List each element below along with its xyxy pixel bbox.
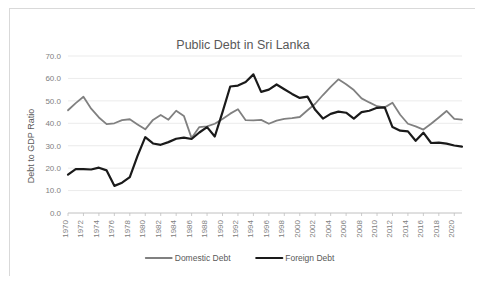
legend-label-2: Foreign Debt bbox=[285, 253, 335, 263]
x-tick-label-1978: 1978 bbox=[123, 219, 132, 237]
chart-title: Public Debt in Sri Lanka bbox=[176, 38, 309, 52]
x-tick-label-2016: 2016 bbox=[416, 219, 425, 237]
x-tick-label-2004: 2004 bbox=[324, 219, 333, 237]
x-tick-label-1970: 1970 bbox=[61, 219, 70, 237]
y-tick-label-10.0: 10.0 bbox=[45, 186, 61, 195]
y-tick-label-70.0: 70.0 bbox=[45, 52, 61, 61]
x-tick-label-1986: 1986 bbox=[185, 219, 194, 237]
public-debt-line-chart: Public Debt in Sri Lanka Debt to GDP Rat… bbox=[10, 9, 476, 277]
x-tick-label-2010: 2010 bbox=[370, 219, 379, 237]
x-tick-label-2018: 2018 bbox=[432, 219, 441, 237]
x-tick-label-1974: 1974 bbox=[92, 219, 101, 237]
x-tick-label-1990: 1990 bbox=[216, 219, 225, 237]
x-tick-label-1980: 1980 bbox=[138, 219, 147, 237]
x-tick-label-1976: 1976 bbox=[107, 219, 116, 237]
y-tick-label-60.0: 60.0 bbox=[45, 74, 61, 83]
y-tick-label-40.0: 40.0 bbox=[45, 119, 61, 128]
y-axis-title: Debt to GDP Ratio bbox=[26, 109, 36, 183]
y-tick-label-0.0: 0.0 bbox=[50, 209, 62, 218]
x-tick-label-1998: 1998 bbox=[277, 219, 286, 237]
x-tick-label-1994: 1994 bbox=[246, 219, 255, 237]
x-tick-label-1984: 1984 bbox=[169, 219, 178, 237]
x-tick-label-2020: 2020 bbox=[447, 219, 456, 237]
x-tick-label-2014: 2014 bbox=[401, 219, 410, 237]
x-tick-label-2006: 2006 bbox=[339, 219, 348, 237]
y-tick-label-30.0: 30.0 bbox=[45, 142, 61, 151]
x-tick-label-1996: 1996 bbox=[262, 219, 271, 237]
y-tick-label-50.0: 50.0 bbox=[45, 97, 61, 106]
y-tick-label-20.0: 20.0 bbox=[45, 164, 61, 173]
x-tick-label-2008: 2008 bbox=[355, 219, 364, 237]
x-tick-label-1982: 1982 bbox=[154, 219, 163, 237]
legend-label-1: Domestic Debt bbox=[175, 253, 231, 263]
x-tick-label-2002: 2002 bbox=[308, 219, 317, 237]
x-tick-label-1972: 1972 bbox=[76, 219, 85, 237]
x-tick-label-2012: 2012 bbox=[385, 219, 394, 237]
x-tick-label-1992: 1992 bbox=[231, 219, 240, 237]
chart-container: Public Debt in Sri Lanka Debt to GDP Rat… bbox=[9, 8, 475, 276]
x-tick-label-2000: 2000 bbox=[293, 219, 302, 237]
x-tick-label-1988: 1988 bbox=[200, 219, 209, 237]
